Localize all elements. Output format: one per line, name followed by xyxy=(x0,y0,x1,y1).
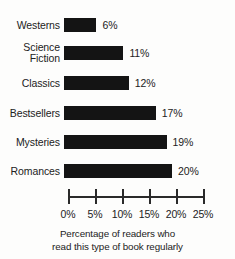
axis-tick xyxy=(122,189,124,204)
axis-tick-label: 10% xyxy=(112,208,132,220)
caption-line-2: read this type of book regularly xyxy=(0,241,235,254)
bar-chart: Westerns6%Science Fiction11%Classics12%B… xyxy=(0,0,235,259)
bar-value-label: 19% xyxy=(173,135,194,149)
axis-tick-label: 15% xyxy=(139,208,159,220)
bar-category-label: Westerns xyxy=(0,20,64,31)
bar-row: Westerns6% xyxy=(0,17,235,33)
bar xyxy=(64,135,167,149)
bar-plot-area: 6% xyxy=(64,17,235,33)
bar-row: Classics12% xyxy=(0,75,235,91)
bar-value-label: 20% xyxy=(178,164,199,178)
x-axis: 0%5%10%15%20%25% xyxy=(68,196,203,197)
bar-category-label: Science Fiction xyxy=(0,42,64,64)
bar xyxy=(64,18,96,32)
bar xyxy=(64,164,172,178)
bar-plot-area: 20% xyxy=(64,163,235,179)
bar-plot-area: 17% xyxy=(64,105,235,121)
bar-category-label: Bestsellers xyxy=(0,108,64,119)
bar-category-label: Romances xyxy=(0,166,64,177)
axis-tick xyxy=(176,189,178,204)
bar-plot-area: 19% xyxy=(64,134,235,150)
bar-row: Bestsellers17% xyxy=(0,105,235,121)
caption-line-1: Percentage of readers who xyxy=(0,228,235,241)
bar-row: Romances20% xyxy=(0,163,235,179)
axis-tick-label: 20% xyxy=(166,208,186,220)
bar-value-label: 17% xyxy=(162,106,183,120)
bar-plot-area: 12% xyxy=(64,75,235,91)
bar xyxy=(64,76,129,90)
bar-category-label: Mysteries xyxy=(0,137,64,148)
chart-caption: Percentage of readers who read this type… xyxy=(0,228,235,253)
axis-line xyxy=(68,196,203,198)
axis-tick xyxy=(203,189,205,204)
axis-tick xyxy=(149,189,151,204)
bar-value-label: 6% xyxy=(102,18,117,32)
bar-row: Mysteries19% xyxy=(0,134,235,150)
bar-row: Science Fiction11% xyxy=(0,45,235,61)
bar-value-label: 12% xyxy=(135,76,156,90)
bar-value-label: 11% xyxy=(129,46,149,60)
bar xyxy=(64,106,156,120)
axis-tick-label: 25% xyxy=(193,208,213,220)
axis-tick xyxy=(95,189,97,204)
bar xyxy=(64,46,123,60)
bar-category-label: Classics xyxy=(0,78,64,89)
axis-tick-label: 0% xyxy=(61,208,76,220)
bar-plot-area: 11% xyxy=(64,45,235,61)
axis-tick-label: 5% xyxy=(88,208,103,220)
axis-tick xyxy=(68,189,70,204)
